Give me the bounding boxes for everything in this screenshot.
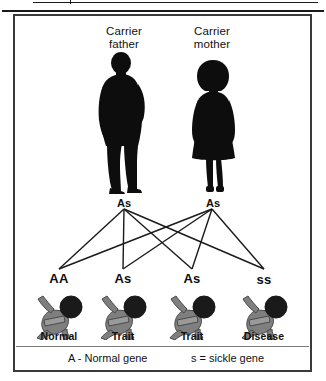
page-rule-upper xyxy=(33,2,318,3)
legend-normal-gene: A - Normal gene xyxy=(68,352,147,364)
child-3-genotype: As xyxy=(167,271,217,286)
page-top-rules xyxy=(0,0,326,13)
carrier-father-title-line2: father xyxy=(79,38,169,51)
child-2-genotype: As xyxy=(98,271,148,286)
legend-sickle-gene: s = sickle gene xyxy=(191,352,264,364)
carrier-father-title: Carrier father xyxy=(79,25,169,50)
figure-canvas: Carrier father Carrier mother xyxy=(15,16,310,370)
carrier-mother-title-line1: Carrier xyxy=(194,25,230,37)
figure-frame: Carrier father Carrier mother xyxy=(13,14,312,372)
child-4-genotype: ss xyxy=(239,272,289,287)
line-mother-to-child-4 xyxy=(212,209,264,269)
page-rule-lower xyxy=(2,10,324,12)
child-1-genotype: AA xyxy=(34,271,84,286)
child-2-caption: Trait xyxy=(88,330,158,342)
carrier-father-title-line1: Carrier xyxy=(106,25,142,37)
page-rule-tick xyxy=(70,0,71,4)
legend-divider xyxy=(16,346,309,347)
line-father-to-child-4 xyxy=(124,209,264,269)
woman-silhouette-icon xyxy=(187,58,241,194)
carrier-mother-title-line2: mother xyxy=(167,38,257,51)
inheritance-lines xyxy=(15,206,310,274)
man-silhouette-icon xyxy=(94,52,152,194)
child-3-caption: Trait xyxy=(157,330,227,342)
line-father-to-child-1 xyxy=(59,209,124,269)
child-1-caption: Normal xyxy=(24,330,94,342)
carrier-mother-title: Carrier mother xyxy=(167,25,257,50)
child-4-caption: Disease xyxy=(229,330,299,342)
line-father-to-child-2 xyxy=(123,209,124,269)
